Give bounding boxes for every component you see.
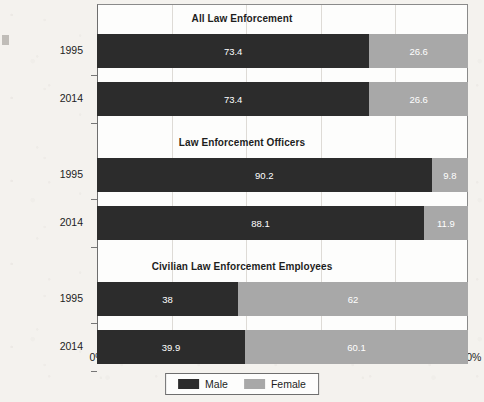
- bar-segment-female[interactable]: 62: [238, 282, 468, 316]
- section-title: Law Enforcement Officers: [0, 137, 484, 148]
- bar-row[interactable]: 73.426.6: [97, 34, 468, 68]
- legend-item-male[interactable]: Male: [178, 378, 228, 390]
- legend-label-female: Female: [271, 378, 306, 390]
- y-axis-tick: [91, 199, 97, 200]
- y-axis-tick: [91, 371, 97, 372]
- bar-segment-female[interactable]: 60.1: [245, 330, 468, 364]
- bar-segment-female[interactable]: 26.6: [369, 34, 468, 68]
- y-axis-tick: [91, 247, 97, 248]
- legend-swatch-female: [244, 379, 265, 389]
- y-axis-year-label: 2014: [35, 216, 83, 228]
- bar-segment-male[interactable]: 73.4: [97, 34, 369, 68]
- legend-swatch-male: [178, 379, 199, 389]
- y-axis-tick: [91, 75, 97, 76]
- bar-segment-male[interactable]: 90.2: [97, 158, 432, 192]
- y-axis-tick: [91, 123, 97, 124]
- legend-label-male: Male: [205, 378, 228, 390]
- y-axis-year-label: 1995: [35, 292, 83, 304]
- bar-row[interactable]: 39.960.1: [97, 330, 468, 364]
- bar-row[interactable]: 88.111.9: [97, 206, 468, 240]
- y-axis-tick: [91, 323, 97, 324]
- y-axis-year-label: 1995: [35, 168, 83, 180]
- bar-segment-female[interactable]: 26.6: [369, 82, 468, 116]
- bar-segment-male[interactable]: 73.4: [97, 82, 369, 116]
- legend-item-female[interactable]: Female: [244, 378, 306, 390]
- bar-segment-male[interactable]: 88.1: [97, 206, 424, 240]
- bar-segment-male[interactable]: 39.9: [97, 330, 245, 364]
- stacked-bar-chart: 0%20%40%60%80%100%All Law Enforcement199…: [0, 0, 484, 402]
- bar-row[interactable]: 90.29.8: [97, 158, 468, 192]
- y-axis-year-label: 2014: [35, 92, 83, 104]
- bar-segment-female[interactable]: 11.9: [424, 206, 468, 240]
- chart-legend: Male Female: [165, 373, 319, 395]
- section-title: Civilian Law Enforcement Employees: [0, 261, 484, 272]
- bar-segment-female[interactable]: 9.8: [432, 158, 468, 192]
- y-axis-year-label: 1995: [35, 44, 83, 56]
- bar-row[interactable]: 3862: [97, 282, 468, 316]
- bar-row[interactable]: 73.426.6: [97, 82, 468, 116]
- section-title: All Law Enforcement: [0, 13, 484, 24]
- bar-segment-male[interactable]: 38: [97, 282, 238, 316]
- y-axis-year-label: 2014: [35, 340, 83, 352]
